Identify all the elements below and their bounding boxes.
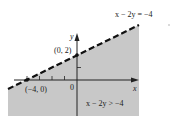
point-0-2-label: (0, 2) xyxy=(54,46,72,55)
y-axis-arrow-icon xyxy=(75,33,80,41)
inequality-label: x − 2y > −4 xyxy=(86,99,124,108)
origin-label: 0 xyxy=(70,83,74,92)
point-neg4-0-label: (−4, 0) xyxy=(25,85,47,94)
line-equation-label: x − 2y = −4 xyxy=(115,10,153,19)
stray-mark xyxy=(168,24,169,25)
point-neg4-0 xyxy=(25,78,29,82)
y-axis-label: y xyxy=(69,32,74,41)
point-0-2 xyxy=(75,53,79,57)
x-axis-label: x xyxy=(132,84,137,93)
inequality-graph: x − 2y = −4 y (0, 2) (−4, 0) 0 x x − 2y … xyxy=(0,0,181,132)
